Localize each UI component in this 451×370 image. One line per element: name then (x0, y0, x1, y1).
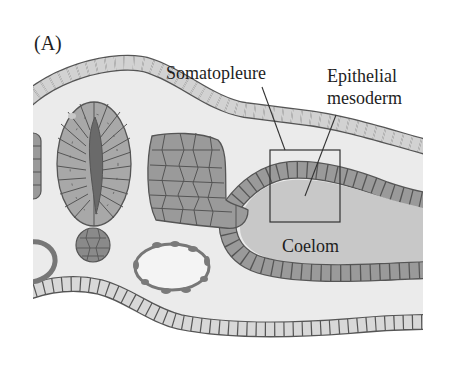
somatopleure-label: Somatopleure (166, 63, 266, 83)
coelom-label: Coelom (282, 236, 339, 256)
embryo-cross-section-diagram: (A) Somatopleure Epithelial mesoderm Coe… (0, 0, 451, 370)
notochord (76, 228, 110, 262)
somite-left-partial (24, 133, 41, 199)
neural-tube (57, 102, 131, 226)
epithelial-mesoderm-label-line1: Epithelial (327, 66, 397, 86)
panel-label: (A) (34, 32, 62, 55)
epithelial-mesoderm-label-line2: mesoderm (327, 88, 402, 108)
